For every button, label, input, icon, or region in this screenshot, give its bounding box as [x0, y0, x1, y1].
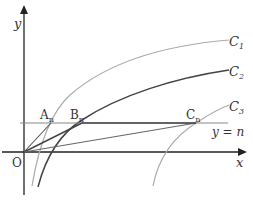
curve-c3-label: C3: [229, 99, 244, 116]
line-y-equals-n-label: y = n: [211, 125, 244, 139]
diagram: y x O C1 C2 C3 An Bn Cn y = n: [0, 0, 253, 202]
curve-c2-label: C2: [229, 64, 244, 81]
diagram-canvas: y x O C1 C2 C3 An Bn Cn y = n: [0, 0, 253, 202]
point-an-label: An: [39, 108, 54, 124]
point-bn-label: Bn: [70, 108, 84, 124]
origin-label: O: [12, 156, 22, 170]
curve-c1-label: C1: [229, 34, 244, 51]
segment-o-cn: [24, 123, 196, 152]
y-axis-label: y: [13, 16, 22, 31]
curve-c2: [38, 70, 229, 187]
point-cn-label: Cn: [186, 108, 200, 124]
x-axis-label: x: [236, 155, 244, 170]
curve-c1: [32, 40, 229, 186]
y-axis-arrow-icon: [20, 5, 28, 14]
